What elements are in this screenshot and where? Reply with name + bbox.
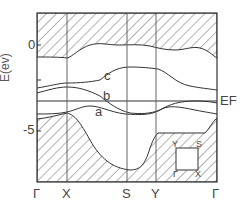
band-label-a: a bbox=[95, 105, 102, 118]
inset-s: S bbox=[196, 140, 202, 149]
y-tick-0: 0 bbox=[28, 38, 35, 51]
y-axis-label: E(ev) bbox=[0, 53, 12, 82]
band-structure-plot bbox=[0, 0, 242, 207]
fermi-label: EF bbox=[220, 94, 237, 107]
band-label-c: c bbox=[104, 69, 111, 82]
x-tick-gamma-start: Γ bbox=[33, 187, 40, 200]
x-tick-gamma-end: Γ bbox=[212, 187, 219, 200]
inset-x: X bbox=[195, 170, 201, 179]
x-tick-x: X bbox=[62, 187, 71, 200]
inset-y: Y bbox=[172, 140, 178, 149]
x-tick-s: S bbox=[122, 187, 131, 200]
y-tick-minus5: -5 bbox=[23, 123, 35, 136]
band-label-b: b bbox=[103, 89, 110, 102]
x-tick-y: Y bbox=[151, 187, 160, 200]
inset-gamma: Γ bbox=[173, 170, 178, 179]
